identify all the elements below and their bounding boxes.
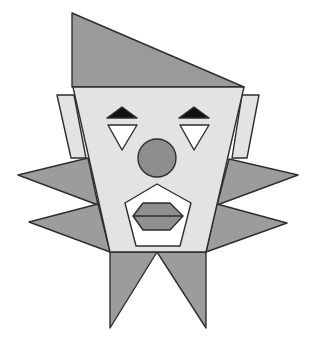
clown-illustration: Geometric clown face — [0, 0, 310, 341]
clown-svg — [0, 0, 310, 341]
nose-circle — [138, 139, 176, 177]
